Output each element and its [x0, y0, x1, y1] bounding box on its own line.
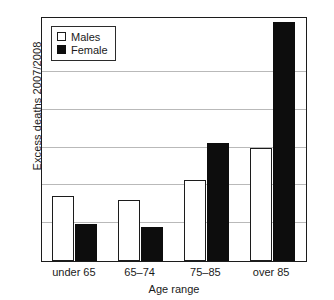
x-axis-label: Age range	[41, 283, 307, 295]
males-swatch-icon	[57, 32, 66, 41]
x-tick-labels: under 6565–7475–85over 85	[41, 266, 307, 282]
legend-label-males: Males	[71, 31, 100, 43]
plot-area: Males Female	[41, 17, 307, 262]
legend-label-female: Female	[71, 44, 108, 56]
legend-item-female: Female	[57, 43, 108, 56]
female-swatch-icon	[57, 45, 66, 54]
bar-female-over-85	[273, 22, 295, 261]
bar-female-75-85	[207, 143, 229, 261]
bar-female-65-74	[141, 227, 163, 261]
x-tick-over-85: over 85	[226, 266, 316, 278]
legend-item-males: Males	[57, 30, 108, 43]
legend: Males Female	[51, 26, 116, 61]
bar-males-75-85	[184, 180, 206, 261]
bar-female-under-65	[75, 224, 97, 261]
bar-males-65-74	[118, 200, 140, 261]
bar-males-over-85	[250, 148, 272, 261]
bar-chart: Excess deaths 2007/2008 Males Female und…	[0, 0, 334, 300]
bar-males-under-65	[52, 196, 74, 261]
